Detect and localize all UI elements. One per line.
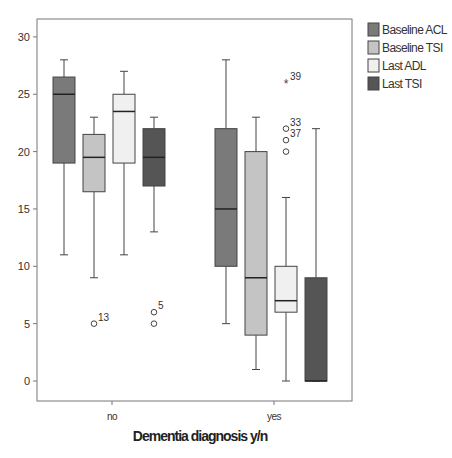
- y-tick-label: 20: [18, 146, 30, 158]
- y-tick-label: 15: [18, 203, 30, 215]
- legend-swatch: [368, 23, 379, 36]
- box-plot-chart: 051015202530 noyes 13*3933375 Dementia d…: [0, 0, 452, 458]
- x-tick-label: yes: [267, 411, 282, 422]
- outlier-star: *: [284, 77, 289, 91]
- legend-swatch: [368, 77, 379, 90]
- outlier-label: 39: [290, 71, 302, 82]
- box-iqr: [215, 129, 237, 267]
- box-iqr: [305, 278, 327, 381]
- y-axis: 051015202530: [18, 31, 37, 387]
- box-baseline-tsi-yes: [245, 117, 267, 369]
- outlier-label: 5: [158, 300, 164, 311]
- x-axis-title: Dementia diagnosis y/n: [133, 428, 268, 444]
- box-iqr: [275, 266, 297, 312]
- x-axis: noyes: [107, 401, 282, 422]
- outlier-label: 13: [98, 312, 110, 323]
- legend-label: Last ADL: [382, 59, 427, 73]
- box-iqr: [53, 77, 75, 163]
- x-tick-label: no: [107, 411, 118, 422]
- y-tick-label: 25: [18, 88, 30, 100]
- legend-label: Last TSI: [382, 77, 422, 91]
- legend-swatch: [368, 41, 379, 54]
- legend-label: Baseline TSI: [382, 41, 443, 55]
- outlier-label: 37: [290, 128, 302, 139]
- y-tick-label: 0: [24, 375, 30, 387]
- box-iqr: [245, 152, 267, 336]
- legend-label: Baseline ACL: [382, 23, 448, 37]
- box-iqr: [113, 94, 135, 163]
- y-tick-label: 5: [24, 318, 30, 330]
- y-tick-label: 30: [18, 31, 30, 43]
- outlier-label: 33: [290, 117, 302, 128]
- box-iqr: [83, 134, 105, 191]
- legend-swatch: [368, 59, 379, 72]
- legend: Baseline ACLBaseline TSILast ADLLast TSI: [368, 23, 448, 91]
- y-tick-label: 10: [18, 260, 30, 272]
